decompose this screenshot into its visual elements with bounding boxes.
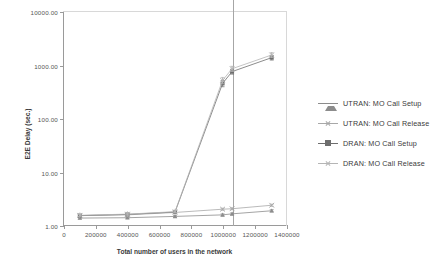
series-data-layer (64, 12, 286, 225)
data-point-marker (269, 203, 274, 208)
x-tick-mark (191, 225, 192, 229)
data-point-marker (173, 210, 177, 214)
y-tick-label: 10.00 (42, 169, 58, 176)
error-bar (270, 204, 274, 206)
data-point-marker (270, 56, 274, 60)
legend-item-3[interactable]: DRAN: MO Call Release (318, 155, 444, 171)
data-point-marker (77, 213, 82, 219)
error-bar (270, 53, 274, 58)
data-point-marker (125, 211, 130, 217)
legend-item-0[interactable]: UTRAN: MO Call Setup (318, 95, 444, 111)
data-point-marker (220, 212, 224, 216)
series-line (80, 205, 272, 215)
y-tick-mark (60, 12, 64, 13)
x-tick-label: 600000 (149, 231, 171, 238)
x-tick-label: 200000 (85, 231, 107, 238)
y-tick-label: 100.00 (38, 116, 58, 123)
error-bar (173, 211, 177, 213)
error-bar (125, 217, 129, 219)
y-tick-mark (60, 66, 64, 67)
data-point-marker (221, 81, 225, 85)
data-point-marker (220, 78, 225, 84)
error-bar (125, 214, 129, 216)
data-point-marker (173, 210, 178, 215)
x-axis-title: Total number of users in the network (63, 248, 286, 255)
y-tick-label: 1.00 (45, 223, 58, 230)
legend-triangle-icon (318, 99, 338, 108)
legend-marker-glyph (325, 140, 331, 146)
error-bar (221, 208, 225, 210)
x-tick-label: 1000000 (211, 231, 237, 238)
error-bar (125, 213, 129, 215)
series-1 (77, 203, 274, 218)
chart-legend: UTRAN: MO Call SetupUTRAN: MO Call Relea… (318, 95, 444, 175)
legend-label: DRAN: MO Call Setup (343, 139, 417, 148)
plot-area: 1.0010.00100.001000.0010000.00 020000040… (63, 12, 286, 226)
error-bar (78, 217, 82, 219)
error-bar (270, 210, 274, 212)
series-0 (78, 208, 274, 219)
series-2 (78, 55, 274, 217)
data-point-marker (173, 209, 178, 215)
data-point-marker (78, 216, 82, 220)
error-bar (78, 214, 82, 216)
error-bar (221, 81, 225, 87)
x-tick-mark (223, 225, 224, 229)
plot-right-border (286, 12, 287, 226)
data-point-marker (77, 213, 82, 218)
legend-marker-glyph (325, 160, 331, 166)
x-tick-label: 1200000 (242, 231, 268, 238)
series-line (80, 55, 272, 215)
data-point-marker (269, 52, 274, 58)
series-line (80, 58, 272, 216)
error-bar (221, 214, 225, 216)
data-point-marker (125, 212, 129, 216)
legend-item-1[interactable]: UTRAN: MO Call Release (318, 115, 444, 131)
x-tick-label: 800000 (180, 231, 202, 238)
legend-star-icon (318, 159, 338, 168)
error-bar (78, 215, 82, 217)
data-point-marker (125, 212, 130, 217)
data-point-marker (78, 214, 82, 218)
error-bar (270, 55, 274, 60)
x-tick-mark (160, 225, 161, 229)
legend-label: DRAN: MO Call Release (343, 159, 425, 168)
x-tick-mark (64, 225, 65, 229)
data-point-marker (125, 215, 129, 219)
legend-label: UTRAN: MO Call Setup (343, 99, 422, 108)
error-bar (173, 212, 177, 214)
y-tick-label: 1000.00 (34, 62, 58, 69)
x-tick-mark (255, 225, 256, 229)
capacity-reference-line (233, 0, 234, 226)
x-tick-mark (96, 225, 97, 229)
series-line (80, 211, 272, 218)
error-bar (173, 211, 177, 213)
error-bar (125, 214, 129, 216)
error-bar (78, 215, 82, 217)
x-tick-mark (287, 225, 288, 229)
error-bar (173, 215, 177, 217)
legend-label: UTRAN: MO Call Release (343, 119, 429, 128)
y-tick-mark (60, 173, 64, 174)
y-tick-label: 10000.00 (31, 9, 58, 16)
error-bar (221, 77, 225, 83)
data-point-marker (270, 208, 274, 212)
legend-marker-glyph (325, 120, 331, 126)
y-tick-mark (60, 119, 64, 120)
x-tick-label: 1400000 (274, 231, 300, 238)
x-tick-label: 400000 (117, 231, 139, 238)
legend-x-icon (318, 119, 338, 128)
legend-marker-glyph (325, 100, 337, 111)
data-point-marker (220, 207, 225, 212)
x-tick-label: 0 (62, 231, 66, 238)
chart-figure: E2E Delay (sec.) 1.0010.00100.001000.001… (0, 0, 447, 267)
legend-item-2[interactable]: DRAN: MO Call Setup (318, 135, 444, 151)
series-3 (77, 52, 274, 218)
x-tick-mark (128, 225, 129, 229)
y-axis-title: E2E Delay (sec.) (24, 108, 31, 159)
data-point-marker (173, 214, 177, 218)
legend-square-icon (318, 139, 338, 148)
